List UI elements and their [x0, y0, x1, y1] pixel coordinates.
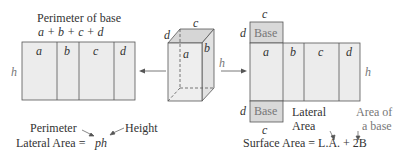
left-face-a: a: [36, 44, 42, 58]
left-net-title: Perimeter of base: [37, 11, 121, 25]
base-bottom-label: Base: [254, 104, 277, 118]
right-top-d: d: [240, 26, 246, 40]
right-top-c: c: [262, 7, 267, 21]
prism-label-b: b: [204, 41, 210, 55]
surface-area-equation: Surface Area = L.A. + 2B: [243, 136, 367, 150]
left-net-formula: a + b + c + d: [38, 25, 104, 39]
prism: [168, 29, 214, 101]
prism-label-a: a: [183, 47, 189, 61]
right-face-a: a: [263, 45, 269, 59]
left-face-d: d: [120, 44, 126, 58]
right-face-b: b: [290, 45, 296, 59]
left-face-b: b: [64, 44, 70, 58]
left-height-label: h: [11, 65, 17, 79]
perimeter-label: Perimeter: [30, 121, 77, 135]
base-area-label-2: a base: [362, 119, 392, 133]
base-area-label-1: Area of: [356, 105, 392, 119]
base-top-label: Base: [254, 26, 277, 40]
lateral-label-1: Lateral: [292, 105, 326, 119]
height-label: Height: [125, 121, 158, 135]
right-height-label: h: [365, 65, 371, 79]
lateral-label-2: Area: [292, 119, 315, 133]
right-face-d: d: [346, 45, 352, 59]
right-face-c: c: [318, 45, 323, 59]
prism-label-d: d: [164, 28, 170, 42]
lateral-area-lhs: Lateral Area =: [16, 136, 85, 150]
lateral-area-rhs: ph: [95, 136, 107, 150]
right-bottom-c: c: [262, 123, 267, 137]
arrow-left: [139, 69, 166, 74]
left-face-c: c: [93, 44, 98, 58]
prism-label-c: c: [193, 16, 198, 30]
prism-label-h: h: [219, 56, 225, 70]
right-bottom-d: d: [240, 104, 246, 118]
